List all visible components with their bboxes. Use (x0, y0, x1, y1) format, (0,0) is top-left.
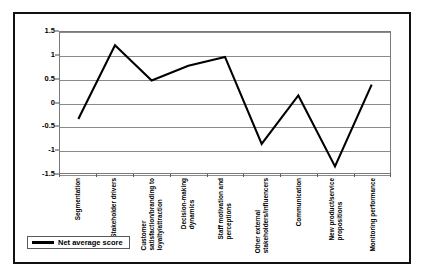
y-axis-tick-label: -1.5 (42, 170, 55, 178)
y-axis-tick-label: 0.5 (45, 75, 55, 83)
chart-container: 1.510.50-0.5-1-1.5 SegmentationStakehold… (13, 12, 411, 264)
series-line-net-average-score (60, 32, 390, 173)
plot-area (59, 31, 391, 174)
x-axis-category-text: New product/service propositions (328, 178, 344, 241)
x-axis-category-label: Monitoring performance (369, 178, 425, 264)
x-axis-category-text: Other external stakeholders/influencers (254, 178, 270, 253)
chart-inner: 1.510.50-0.5-1-1.5 SegmentationStakehold… (15, 14, 409, 262)
x-axis-tick-mark (317, 174, 318, 177)
x-axis-tick-mark (280, 174, 281, 177)
x-axis: SegmentationStakeholder driversCustomer … (59, 174, 391, 266)
y-axis-tick-label: 1.5 (45, 27, 55, 35)
y-axis: 1.510.50-0.5-1-1.5 (29, 31, 55, 174)
x-axis-category-text: Monitoring performance (369, 178, 377, 252)
x-axis-tick-mark (133, 174, 134, 177)
x-axis-category-text: Communication (295, 178, 303, 226)
x-axis-tick-mark (96, 174, 97, 177)
x-axis-category-text: Customer satisfaction/branding to loyalt… (140, 178, 163, 250)
x-axis-tick-mark (207, 174, 208, 177)
x-axis-category-text: Stakeholder drivers (110, 178, 118, 238)
x-axis-category-text: Staff motivation and perceptions (217, 178, 233, 239)
y-axis-tick-label: -0.5 (42, 123, 55, 131)
chart-legend: Net average score (27, 236, 130, 249)
x-axis-category-text: Decision-making dynamics (180, 178, 196, 229)
x-axis-tick-mark (243, 174, 244, 177)
x-axis-category-text: Segmentation (74, 178, 82, 220)
x-axis-tick-mark (390, 174, 391, 177)
legend-label: Net average score (58, 239, 123, 247)
y-axis-tick-label: -1 (48, 146, 55, 154)
x-axis-tick-mark (170, 174, 171, 177)
x-axis-tick-mark (354, 174, 355, 177)
x-axis-tick-mark (59, 174, 60, 177)
legend-line-swatch (32, 241, 54, 244)
